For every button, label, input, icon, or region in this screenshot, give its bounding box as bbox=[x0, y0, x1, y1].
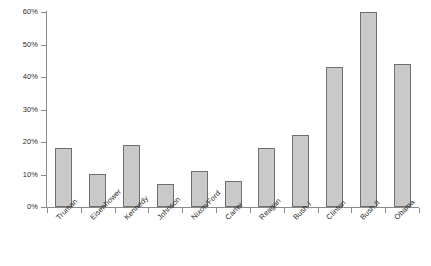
bar bbox=[394, 64, 411, 207]
bar bbox=[292, 135, 309, 207]
x-axis-tick bbox=[284, 208, 285, 213]
y-axis-tick-label: 0% bbox=[27, 203, 38, 211]
x-axis-tick bbox=[182, 208, 183, 213]
y-axis-tick-label: 60% bbox=[23, 8, 38, 16]
y-axis-tick bbox=[41, 12, 46, 13]
y-axis-tick bbox=[41, 175, 46, 176]
x-axis-tick bbox=[216, 208, 217, 213]
x-axis-tick bbox=[148, 208, 149, 213]
y-axis-tick bbox=[41, 207, 46, 208]
bar bbox=[123, 145, 140, 207]
y-axis-tick-label: 50% bbox=[23, 41, 38, 49]
y-axis-tick-label: 40% bbox=[23, 73, 38, 81]
y-axis-tick-label: 20% bbox=[23, 138, 38, 146]
x-axis-tick bbox=[318, 208, 319, 213]
bars-group bbox=[47, 12, 419, 207]
x-axis-tick bbox=[47, 208, 48, 213]
y-axis-tick-label: 30% bbox=[23, 106, 38, 114]
x-axis-tick bbox=[81, 208, 82, 213]
x-axis-tick bbox=[385, 208, 386, 213]
y-axis-tick-label: 10% bbox=[23, 171, 38, 179]
y-axis-tick bbox=[41, 110, 46, 111]
x-axis-tick bbox=[351, 208, 352, 213]
bar bbox=[258, 148, 275, 207]
x-axis-tick bbox=[250, 208, 251, 213]
bar bbox=[55, 148, 72, 207]
y-axis-tick bbox=[41, 77, 46, 78]
bar bbox=[326, 67, 343, 207]
bar bbox=[360, 12, 377, 207]
y-axis-tick bbox=[41, 142, 46, 143]
bar-chart: 0%10%20%30%40%50%60% TrumanEisenhowerKen… bbox=[0, 0, 431, 266]
x-axis-tick bbox=[115, 208, 116, 213]
x-axis-tick bbox=[419, 208, 420, 213]
y-axis-tick bbox=[41, 45, 46, 46]
